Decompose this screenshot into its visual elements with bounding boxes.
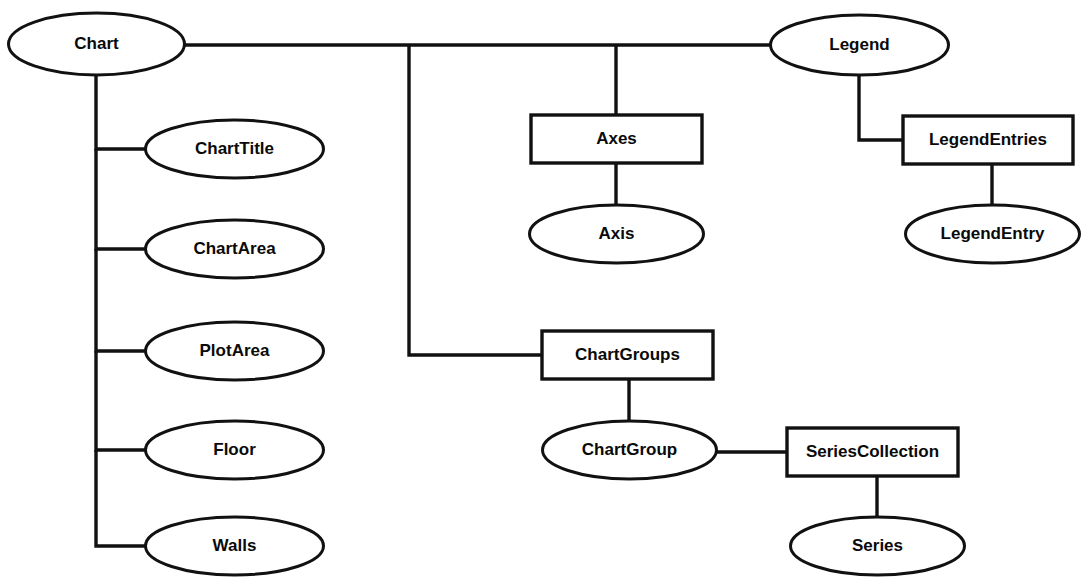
connector-chart-to-chart-area (96, 149, 146, 249)
node-label-chart-title: ChartTitle (195, 139, 274, 158)
node-label-legend-entries: LegendEntries (929, 130, 1047, 149)
node-axis[interactable]: Axis (530, 205, 704, 263)
node-series-collection[interactable]: SeriesCollection (787, 428, 958, 476)
node-chart-groups[interactable]: ChartGroups (542, 331, 713, 379)
node-label-plot-area: PlotArea (200, 341, 270, 360)
node-label-walls: Walls (213, 536, 257, 555)
node-label-chart-group: ChartGroup (582, 440, 677, 459)
node-chart-group[interactable]: ChartGroup (543, 421, 717, 479)
connector-chart-to-walls (96, 450, 146, 546)
connector-chart-to-chart-title (96, 73, 146, 149)
diagram-canvas: ChartChartTitleChartAreaPlotAreaFloorWal… (0, 0, 1089, 584)
node-label-chart-area: ChartArea (193, 239, 276, 258)
node-chart[interactable]: Chart (9, 13, 185, 75)
node-axes[interactable]: Axes (531, 115, 702, 163)
connector-legend-to-legend-entries (859, 75, 903, 140)
node-label-axis: Axis (599, 224, 635, 243)
node-legend-entry[interactable]: LegendEntry (906, 205, 1080, 263)
node-legend-entries[interactable]: LegendEntries (903, 116, 1073, 164)
node-floor[interactable]: Floor (146, 421, 324, 479)
object-model-diagram: ChartChartTitleChartAreaPlotAreaFloorWal… (0, 0, 1089, 584)
node-label-series-collection: SeriesCollection (806, 442, 939, 461)
node-label-legend: Legend (829, 35, 889, 54)
node-series[interactable]: Series (791, 517, 965, 575)
node-label-chart-groups: ChartGroups (575, 345, 680, 364)
node-label-legend-entry: LegendEntry (941, 224, 1045, 243)
node-chart-area[interactable]: ChartArea (146, 220, 324, 278)
node-label-series: Series (852, 536, 903, 555)
node-walls[interactable]: Walls (146, 517, 324, 575)
node-legend[interactable]: Legend (771, 15, 949, 75)
node-layer: ChartChartTitleChartAreaPlotAreaFloorWal… (9, 13, 1080, 575)
node-label-floor: Floor (213, 440, 256, 459)
node-chart-title[interactable]: ChartTitle (146, 120, 324, 178)
connector-chart-to-chart-groups (409, 45, 542, 355)
node-label-axes: Axes (596, 129, 637, 148)
connector-chart-to-plot-area (96, 249, 146, 351)
connector-chart-to-floor (96, 351, 146, 450)
node-plot-area[interactable]: PlotArea (146, 322, 324, 380)
node-label-chart: Chart (74, 34, 119, 53)
